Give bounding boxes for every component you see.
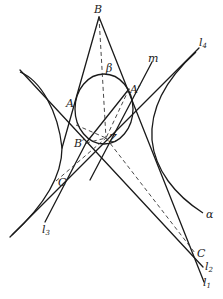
label-beta: β xyxy=(105,62,112,75)
label-A-prime: A′ xyxy=(129,83,141,96)
label-l4: l4 xyxy=(199,36,207,50)
line-l2 xyxy=(20,70,203,267)
label-alpha: α xyxy=(206,208,214,221)
label-l1: l1 xyxy=(203,276,211,290)
label-l3: l3 xyxy=(42,223,51,237)
conic-alpha-right-branch-lower xyxy=(152,140,203,213)
label-C-prime: C′ xyxy=(58,176,69,189)
label-A: A xyxy=(65,97,74,110)
label-B: B xyxy=(93,3,102,16)
label-C: C xyxy=(197,247,206,260)
geometry-diagram: B β m l4 A A′ B′ Z C′ l3 α C l2 l1 xyxy=(0,0,223,299)
conic-alpha-right-branch-upper xyxy=(152,52,196,140)
line-m xyxy=(90,62,152,180)
label-m: m xyxy=(148,52,158,65)
label-l2: l2 xyxy=(205,260,214,274)
label-Z: Z xyxy=(108,132,117,145)
conic-alpha-left-branch-upper xyxy=(20,72,62,148)
line-l4 xyxy=(10,48,199,237)
label-B-prime: B′ xyxy=(73,137,85,150)
conic-alpha-left-branch-lower xyxy=(12,148,62,235)
